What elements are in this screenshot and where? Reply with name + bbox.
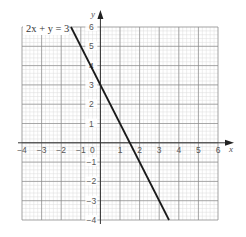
x-tick-label: 4 — [176, 145, 181, 155]
axes — [18, 10, 234, 224]
equation-label-box: 2x + y = 3 — [23, 21, 69, 35]
x-tick-label: 3 — [157, 145, 162, 155]
coordinate-graph: −4−3−2−10123456−4−3−2−1123456 2x + y = 3… — [0, 0, 246, 237]
x-tick-label: −4 — [17, 145, 27, 155]
x-tick-label: 6 — [216, 145, 221, 155]
y-tick-label: 2 — [89, 99, 94, 109]
y-tick-label: −4 — [87, 215, 97, 225]
y-axis-label: y — [90, 9, 95, 19]
x-tick-label: 5 — [196, 145, 201, 155]
equation-label: 2x + y = 3 — [26, 23, 69, 34]
y-tick-label: 1 — [89, 119, 94, 129]
x-tick-label: 0 — [90, 145, 95, 155]
y-tick-label: −3 — [87, 196, 97, 206]
y-tick-label: −2 — [87, 176, 97, 186]
y-tick-label: 6 — [89, 22, 94, 32]
x-tick-label: 1 — [118, 145, 123, 155]
x-tick-label: 2 — [137, 145, 142, 155]
x-tick-label: −1 — [76, 145, 86, 155]
y-tick-label: 3 — [89, 80, 94, 90]
y-tick-label: −1 — [87, 157, 97, 167]
x-axis-label: x — [228, 144, 233, 154]
x-tick-label: −2 — [56, 145, 66, 155]
x-tick-label: −3 — [37, 145, 47, 155]
y-tick-label: 5 — [89, 41, 94, 51]
